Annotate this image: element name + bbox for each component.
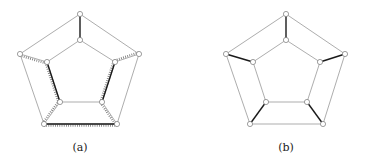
vertex-i2 [304, 99, 309, 104]
hatched-edge [114, 52, 138, 60]
pentagonal-prism-graph-diagram [0, 0, 368, 157]
thin-edge [117, 54, 139, 124]
vertex-o4 [223, 51, 228, 56]
thin-edge [253, 62, 266, 102]
vertex-o4 [17, 51, 22, 56]
bold-edge [47, 62, 60, 102]
bold-edge [226, 54, 253, 62]
caption-b: (b) [278, 141, 294, 154]
vertex-o1 [342, 51, 347, 56]
thin-edge [286, 40, 320, 62]
vertex-o2 [320, 121, 325, 126]
hatched-edge-base [44, 102, 60, 124]
vertex-i0 [283, 37, 288, 42]
hatched-edge [20, 56, 47, 64]
thin-edge [20, 14, 80, 54]
vertex-i1 [317, 59, 322, 64]
vertex-o3 [41, 121, 46, 126]
hatched-edge [43, 101, 59, 123]
bold-edge [250, 102, 266, 124]
hatched-edge [100, 62, 113, 102]
vertex-o3 [247, 121, 252, 126]
vertex-o1 [136, 51, 141, 56]
vertex-i4 [250, 59, 255, 64]
thin-edge [286, 14, 345, 54]
thin-edge [80, 14, 139, 54]
thin-edge [80, 40, 115, 62]
vertex-o0 [77, 11, 82, 16]
bold-edge [102, 62, 115, 102]
vertex-i4 [44, 59, 49, 64]
thin-edge [226, 14, 286, 54]
vertex-i2 [99, 99, 104, 104]
bold-edge [320, 54, 345, 62]
thin-edge [47, 40, 80, 62]
vertex-i3 [263, 99, 268, 104]
thin-edge [253, 40, 286, 62]
vertex-i1 [112, 59, 117, 64]
vertex-o2 [114, 121, 119, 126]
thin-edge [323, 54, 345, 124]
bold-edge [307, 102, 323, 124]
thin-edge [226, 54, 250, 124]
thin-edge [20, 54, 44, 124]
hatched-edge [45, 62, 58, 102]
vertex-i0 [77, 37, 82, 42]
vertex-i3 [57, 99, 62, 104]
caption-a: (a) [72, 141, 87, 154]
thin-edge [307, 62, 320, 102]
hatched-edge-base [102, 102, 117, 124]
vertex-o0 [283, 11, 288, 16]
hatched-edge [101, 103, 116, 125]
